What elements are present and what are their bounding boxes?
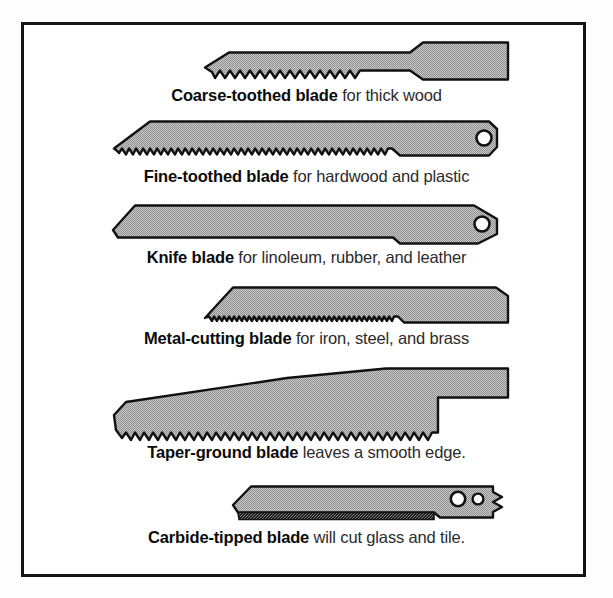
blade-caption-taper-ground: Taper-ground blade leaves a smooth edge. (0, 444, 613, 461)
blade-description: for thick wood (338, 86, 442, 104)
blade-description: will cut glass and tile. (309, 528, 465, 546)
blade-name: Metal-cutting blade (144, 329, 292, 347)
page-canvas: Coarse-toothed blade for thick wood Fine… (0, 0, 613, 598)
blade-description: for hardwood and plastic (289, 167, 470, 185)
figure-frame (21, 22, 586, 577)
blade-name: Knife blade (147, 248, 234, 266)
blade-caption-metal-cutting: Metal-cutting blade for iron, steel, and… (0, 330, 613, 347)
blade-caption-coarse-toothed: Coarse-toothed blade for thick wood (0, 87, 613, 104)
blade-description: leaves a smooth edge. (298, 443, 465, 461)
blade-caption-knife: Knife blade for linoleum, rubber, and le… (0, 249, 613, 266)
blade-description: for iron, steel, and brass (291, 329, 469, 347)
blade-caption-carbide-tipped: Carbide-tipped blade will cut glass and … (0, 529, 613, 546)
blade-name: Taper-ground blade (147, 443, 298, 461)
blade-caption-fine-toothed: Fine-toothed blade for hardwood and plas… (0, 168, 613, 185)
blade-name: Carbide-tipped blade (148, 528, 309, 546)
blade-name: Coarse-toothed blade (171, 86, 338, 104)
blade-name: Fine-toothed blade (144, 167, 289, 185)
blade-description: for linoleum, rubber, and leather (234, 248, 466, 266)
